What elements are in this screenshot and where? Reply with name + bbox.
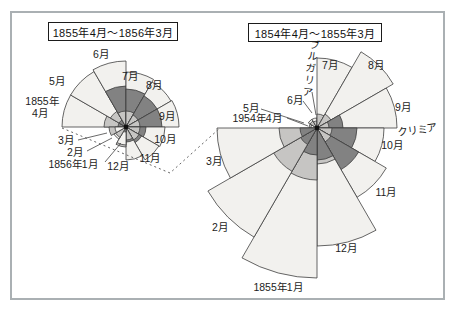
month-label-right-jul: 7月 [322, 60, 338, 71]
month-label-right-mar: 3月 [206, 156, 222, 167]
month-label-left-mar: 3月 [58, 135, 74, 146]
month-label-right-feb: 2月 [212, 222, 228, 233]
month-label-right-sep: 9月 [395, 102, 411, 113]
center-dot-right [315, 126, 320, 131]
month-label-left-apr-year: 1855年 [25, 96, 58, 107]
month-label-left-feb: 2月 [67, 147, 83, 158]
right-jun-pointer [303, 101, 312, 113]
month-label-left-jul: 7月 [122, 71, 138, 82]
left-period-title: 1855年4月～1856年3月 [48, 22, 178, 41]
month-label-right-oct: 10月 [381, 140, 403, 151]
right-apr-pointer [287, 118, 308, 126]
month-label-left-aug: 8月 [146, 80, 162, 91]
month-label-right-jan: 1855年1月 [253, 282, 302, 293]
month-label-right-may: 5月 [243, 103, 259, 114]
month-label-right-nov: 11月 [376, 187, 397, 198]
month-label-left-nov: 11月 [140, 153, 161, 164]
month-label-right-aug: 8月 [368, 60, 384, 71]
month-label-left-sep: 9月 [159, 111, 175, 122]
nightingale-rose-figure: 1855年4月～1856年3月 1854年4月～1855年3月 6月7月8月9月… [0, 0, 459, 312]
center-dot-left [124, 125, 129, 130]
month-label-left-oct: 10月 [154, 134, 176, 145]
month-label-left-jun: 6月 [93, 49, 109, 60]
left-mar-pointer [78, 133, 107, 140]
month-label-left-apr: 4月 [32, 108, 48, 119]
month-label-right-apr: 1954年4月 [232, 113, 281, 124]
month-label-left-dec: 12月 [107, 161, 129, 172]
month-label-right-dec: 12月 [335, 243, 357, 254]
month-label-left-may: 5月 [49, 76, 65, 87]
month-label-left-jan: 1856年1月 [48, 159, 97, 170]
